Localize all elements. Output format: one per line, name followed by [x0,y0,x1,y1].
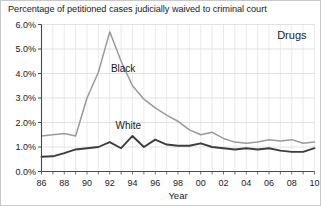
y-axis-ticks: 0.0%1.0%2.0%3.0%4.0%5.0%6.0% [15,20,41,177]
y-tick-label: 5.0% [15,44,36,54]
series-label-white: White [115,120,141,131]
x-tick-label: 08 [287,178,297,188]
series-label-black: Black [111,63,136,74]
x-tick-label: 90 [82,178,92,188]
x-tick-label: 06 [264,178,274,188]
x-tick-label: 98 [173,178,183,188]
chart-figure: Percentage of petitioned cases judiciall… [0,0,321,206]
x-tick-label: 86 [36,178,46,188]
x-tick-label: 92 [105,178,115,188]
y-tick-label: 3.0% [15,93,36,103]
x-tick-label: 02 [218,178,228,188]
x-tick-label: 94 [127,178,137,188]
x-tick-label: 88 [59,178,69,188]
line-chart-plot: 0.0%1.0%2.0%3.0%4.0%5.0%6.0% 86889092949… [1,1,321,206]
x-tick-label: 00 [196,178,206,188]
x-tick-label: 04 [241,178,251,188]
panel-label: Drugs [277,29,307,41]
y-tick-label: 0.0% [15,167,36,177]
y-tick-label: 1.0% [15,142,36,152]
x-tick-label: 96 [150,178,160,188]
y-tick-label: 2.0% [15,118,36,128]
x-tick-label: 10 [309,178,319,188]
y-tick-label: 6.0% [15,20,36,30]
x-axis-title: Year [168,190,187,201]
x-axis-ticks: 86889092949698000204060810 [36,172,319,188]
y-tick-label: 4.0% [15,69,36,79]
